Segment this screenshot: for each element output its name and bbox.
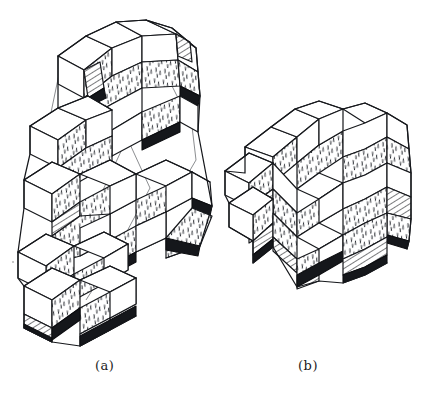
figure-panel-a: [0, 0, 240, 350]
caption-label-b: (b): [298, 358, 318, 373]
figure-panel-b: #panel-b .f-stip{fill:url(#stippleB);} #…: [215, 95, 424, 290]
scan-speck: [12, 261, 14, 263]
figure-sheet: #panel-b .f-stip{fill:url(#stippleB);} #…: [0, 0, 424, 400]
caption-label-a: (a): [95, 358, 114, 373]
